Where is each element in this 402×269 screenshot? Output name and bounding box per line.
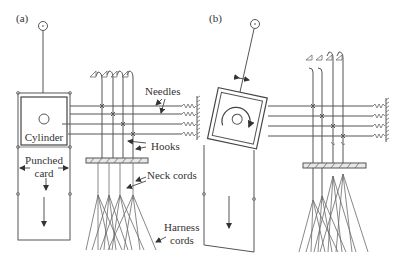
cylinder-axle-icon: [39, 114, 49, 124]
cylinder-label: Cylinder: [25, 131, 64, 143]
neck-cords: [98, 163, 133, 195]
swing-arrow-icon: [239, 78, 249, 80]
harness-cords: [299, 174, 368, 252]
cylinder-axle-icon: [231, 113, 243, 125]
needles: [268, 98, 389, 142]
hooks: [90, 71, 135, 162]
panel-a: (a) Cylinder Punched card: [16, 12, 200, 250]
panel-b: (b): [203, 12, 390, 252]
jacquard-diagram: (a) Cylinder Punched card: [0, 0, 402, 269]
harness-cords: [86, 195, 156, 250]
cords-label: cords: [170, 234, 194, 246]
rotation-arrow-icon: [221, 105, 253, 131]
lift-rod: [240, 29, 254, 92]
pivot-icon: [251, 20, 260, 29]
tilted-cylinder: [208, 88, 268, 149]
hooks-label: Hooks: [151, 140, 180, 152]
harness-label: Harness: [164, 221, 199, 233]
needles: [62, 96, 200, 140]
pivot-icon: [39, 22, 48, 31]
panel-b-label: (b): [209, 12, 222, 25]
panel-a-label: (a): [16, 12, 29, 25]
needles-label: Needles: [145, 85, 180, 97]
punched-label: Punched: [25, 154, 63, 166]
card-label: card: [35, 167, 54, 179]
neck-cords-label: Neck cords: [147, 169, 197, 181]
